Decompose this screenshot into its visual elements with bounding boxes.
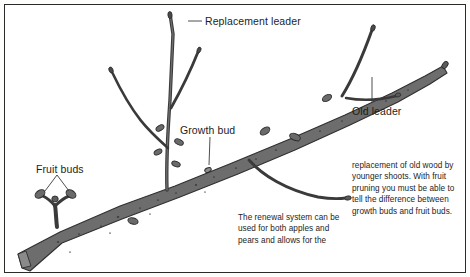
caption-text-right: replacement of old wood by younger shoot… [352,160,460,217]
leader-lines [45,21,372,191]
label-growth-bud: Growth bud [180,124,235,136]
label-replacement-leader: Replacement leader [205,15,301,27]
descending-shoot [249,160,352,201]
leader-line-fruit-buds [45,175,69,191]
caption-text-left: The renewal system can be used for both … [238,212,350,246]
label-fruit-buds: Fruit buds [36,163,84,175]
label-old-leader: Old leader [352,105,401,117]
fruit-bud-spur [34,188,78,227]
replacement-leader-shoot [108,11,202,190]
branch-illustration [0,0,470,277]
leader-line-growth-bud [209,137,210,165]
illustration-figure: Replacement leader Old leader Growth bud… [0,0,470,277]
